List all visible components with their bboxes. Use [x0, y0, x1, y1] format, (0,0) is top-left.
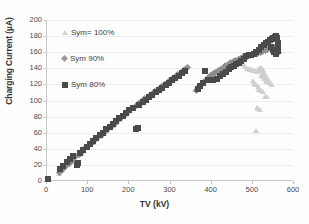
- x-axis-tick-mark: [128, 181, 129, 184]
- gridline: [47, 20, 293, 21]
- x-axis-tick-label: 400: [196, 186, 226, 194]
- x-axis-tick-label: 200: [113, 186, 143, 194]
- y-axis-tick-label: 60: [20, 129, 42, 137]
- x-axis-tick-label: 500: [237, 186, 267, 194]
- y-axis-tick-label: 180: [20, 32, 42, 40]
- plot-area: [46, 20, 293, 181]
- data-point: [70, 153, 76, 159]
- data-point: [264, 94, 270, 99]
- data-point: [257, 107, 263, 112]
- data-point: [253, 128, 259, 133]
- diamond-icon: [61, 55, 68, 62]
- square-icon: [62, 82, 68, 88]
- data-point: [269, 82, 275, 87]
- y-axis-tick-label: 20: [20, 161, 42, 169]
- y-axis-tick-label: 0: [20, 177, 42, 185]
- x-axis-tick-mark: [170, 181, 171, 184]
- legend-item-sym-100: Sym= 100%: [62, 28, 114, 37]
- gridline: [47, 117, 293, 118]
- x-axis-tick-mark: [87, 181, 88, 184]
- legend-item-sym-80: Sym 80%: [62, 80, 105, 89]
- y-axis-title: Charging Current (µA): [4, 0, 14, 126]
- x-axis-tick-label: 0: [31, 186, 61, 194]
- x-axis-tick-label: 100: [72, 186, 102, 194]
- data-point: [75, 160, 81, 166]
- data-point: [130, 105, 136, 111]
- chart-container: Charging Current (µA) TV (kV) 0204060801…: [0, 0, 309, 224]
- y-axis-tick-label: 80: [20, 113, 42, 121]
- legend-label-sym-80: Sym 80%: [71, 80, 105, 89]
- y-axis-tick-label: 160: [20, 48, 42, 56]
- legend-item-sym-90: Sym 90%: [62, 54, 104, 63]
- y-axis-tick-label: 40: [20, 145, 42, 153]
- y-axis-tick-label: 120: [20, 80, 42, 88]
- gridline: [47, 165, 293, 166]
- y-axis-tick-label: 100: [20, 97, 42, 105]
- x-axis-title: TV (kV): [0, 199, 309, 209]
- y-axis-tick-label: 200: [20, 16, 42, 24]
- x-axis-tick-mark: [252, 181, 253, 184]
- x-axis-tick-label: 300: [155, 186, 185, 194]
- data-point: [182, 68, 188, 74]
- x-axis-tick-mark: [211, 181, 212, 184]
- data-point: [135, 125, 141, 131]
- data-point: [202, 68, 208, 74]
- legend-label-sym-100: Sym= 100%: [71, 28, 114, 37]
- data-point: [45, 176, 51, 182]
- y-axis-tick-label: 140: [20, 64, 42, 72]
- gridline: [47, 101, 293, 102]
- x-axis-tick-mark: [293, 181, 294, 184]
- x-axis-tick-label: 600: [278, 186, 308, 194]
- triangle-icon: [62, 30, 68, 35]
- data-point: [268, 44, 274, 50]
- legend-label-sym-90: Sym 90%: [70, 54, 104, 63]
